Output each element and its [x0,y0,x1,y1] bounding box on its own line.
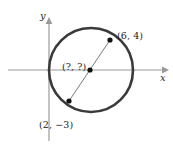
y-axis-arrowhead [46,17,53,24]
y-axis-label: y [40,11,46,21]
circle-diagram-figure: y x (6, 4) (2, −3) (?, ?) [0,0,173,153]
point-label-lower-left: (2, −3) [39,120,73,130]
point-dot-lower-left [66,98,71,103]
x-axis-label: x [160,73,166,83]
point-label-center: (?, ?) [62,62,86,72]
diagram-canvas [0,0,173,153]
point-label-upper-right: (6, 4) [117,31,143,41]
point-dot-upper-right [107,37,112,42]
point-dot-center [87,67,92,72]
